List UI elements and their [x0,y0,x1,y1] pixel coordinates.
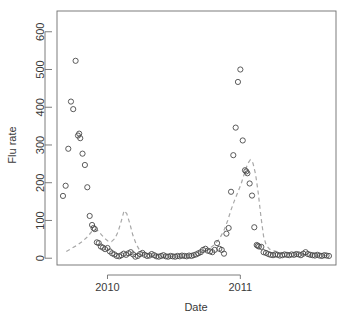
y-axis-title: Flu rate [6,126,18,163]
x-axis-title: Date [184,301,207,313]
y-tick-label: 300 [34,136,46,154]
y-tick-label: 500 [34,60,46,78]
y-tick-label: 600 [34,23,46,41]
y-tick-label: 100 [34,211,46,229]
y-tick-label: 400 [34,98,46,116]
y-tick-label: 0 [34,255,46,261]
x-tick-label: 2010 [95,281,119,293]
x-tick-label: 2011 [229,281,253,293]
chart-canvas: 0100200300400500600 20102011 Flu rate Da… [0,0,348,323]
flu-rate-chart: 0100200300400500600 20102011 Flu rate Da… [0,0,348,323]
y-tick-label: 200 [34,174,46,192]
